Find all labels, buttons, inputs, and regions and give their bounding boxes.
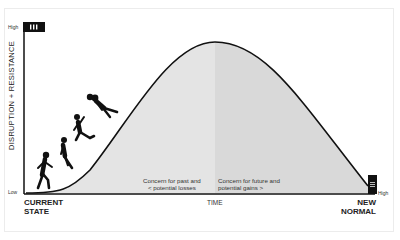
y-axis-label: DISRUPTION + RESISTANCE bbox=[7, 41, 16, 150]
concern-right-text: Concern for future and potential gains > bbox=[218, 177, 280, 191]
current-state-label: CURRENT STATE bbox=[24, 198, 63, 216]
right-high-label: High bbox=[378, 190, 388, 196]
stumbling-person-icon bbox=[74, 114, 94, 140]
concern-left-line2: < potential losses bbox=[143, 184, 201, 191]
y-axis-low-label: Low bbox=[8, 189, 17, 195]
walking-person-icon bbox=[38, 152, 52, 188]
y-axis-high-label: High bbox=[8, 24, 18, 30]
x-axis-label: TIME bbox=[207, 199, 223, 206]
new-label: NEW bbox=[340, 198, 376, 207]
concern-right-line2: potential gains > bbox=[218, 184, 280, 191]
high-marker-icon bbox=[23, 22, 45, 32]
area-left bbox=[26, 42, 215, 193]
leaning-person-icon bbox=[61, 137, 72, 168]
falling-person-icon bbox=[87, 94, 117, 117]
concern-left-line1: Concern for past and bbox=[143, 177, 201, 184]
new-normal-label: NEW NORMAL bbox=[340, 198, 376, 216]
area-right bbox=[215, 42, 368, 193]
concern-left-text: Concern for past and < potential losses bbox=[143, 177, 201, 191]
normal-label: NORMAL bbox=[340, 207, 376, 216]
state-label: STATE bbox=[24, 207, 63, 216]
current-label: CURRENT bbox=[24, 198, 63, 207]
new-normal-marker-icon bbox=[368, 175, 377, 194]
concern-right-line1: Concern for future and bbox=[218, 177, 280, 184]
